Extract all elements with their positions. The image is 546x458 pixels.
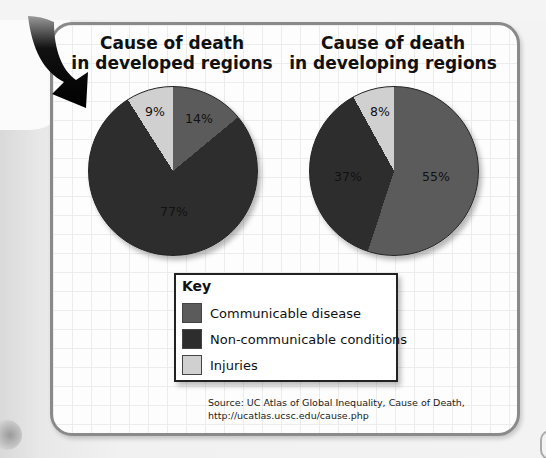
legend-item-communicable: Communicable disease xyxy=(182,303,361,323)
title-line-2: in developing regions xyxy=(283,53,503,73)
legend-label: Communicable disease xyxy=(210,306,361,321)
decorative-edge xyxy=(540,430,546,458)
legend-item-noncommunicable: Non-communicable conditions xyxy=(182,329,407,349)
source-citation: Source: UC Atlas of Global Inequality, C… xyxy=(208,396,465,422)
legend-title: Key xyxy=(182,278,211,294)
legend: Key Communicable disease Non-communicabl… xyxy=(174,273,398,382)
title-line-2: in developed regions xyxy=(62,53,282,73)
legend-swatch xyxy=(182,355,202,375)
label-communicable-developed: 14% xyxy=(185,111,213,126)
label-injuries-developed: 9% xyxy=(145,104,165,119)
title-line-1: Cause of death xyxy=(62,33,282,53)
label-noncommunicable-developing: 37% xyxy=(334,169,362,184)
label-injuries-developing: 8% xyxy=(370,104,390,119)
legend-swatch xyxy=(182,303,202,323)
legend-label: Non-communicable conditions xyxy=(210,332,407,347)
chart-title-developed: Cause of death in developed regions xyxy=(62,33,282,73)
source-line-1: Source: UC Atlas of Global Inequality, C… xyxy=(208,396,465,409)
legend-label: Injuries xyxy=(210,358,258,373)
chart-title-developing: Cause of death in developing regions xyxy=(283,33,503,73)
legend-swatch xyxy=(182,329,202,349)
decorative-knob xyxy=(0,420,22,450)
title-line-1: Cause of death xyxy=(283,33,503,53)
label-communicable-developing: 55% xyxy=(422,169,450,184)
source-url: http://ucatlas.ucsc.edu/cause.php xyxy=(208,409,465,422)
pie-chart-developed xyxy=(88,86,258,256)
label-noncommunicable-developed: 77% xyxy=(160,204,188,219)
legend-item-injuries: Injuries xyxy=(182,355,258,375)
